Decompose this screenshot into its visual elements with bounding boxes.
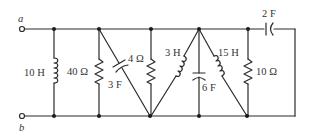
- capacitor-2f-label: 2 F: [262, 8, 276, 19]
- inductor-3h: [151, 29, 199, 116]
- terminal-b: [20, 114, 25, 119]
- capacitor-2f: [266, 23, 273, 35]
- capacitor-6f: [193, 29, 205, 116]
- capacitor-6f-label: 6 F: [202, 82, 216, 93]
- resistor-40ohm-label: 40 Ω: [67, 66, 88, 77]
- capacitor-3f-label: 3 F: [108, 79, 122, 90]
- terminal-b-label: b: [19, 122, 24, 133]
- resistor-10ohm-label: 10 Ω: [256, 66, 277, 77]
- inductor-10h: [54, 29, 58, 116]
- resistor-40ohm: [95, 29, 103, 116]
- resistor-4ohm: [147, 29, 155, 116]
- inductor-3h-label: 3 H: [165, 47, 181, 58]
- circuit-diagram: a b 10 H 40 Ω 3 F 4 Ω 3 H: [0, 0, 313, 136]
- terminal-a-label: a: [18, 13, 23, 24]
- resistor-4ohm-label: 4 Ω: [128, 53, 144, 64]
- inductor-15h-label: 15 H: [218, 47, 239, 58]
- terminal-a: [20, 27, 25, 32]
- inductor-15h: [199, 29, 247, 116]
- capacitor-3f: [99, 29, 150, 116]
- inductor-10h-label: 10 H: [24, 67, 45, 78]
- resistor-10ohm: [244, 29, 252, 116]
